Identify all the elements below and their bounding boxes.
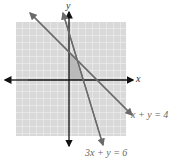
line-label-2: 3x + y = 6 — [85, 147, 127, 158]
line-label-1: x + y = 4 — [131, 109, 168, 120]
coordinate-plane — [0, 0, 182, 161]
x-axis-label: x — [136, 73, 140, 84]
y-axis-label: y — [66, 0, 70, 11]
